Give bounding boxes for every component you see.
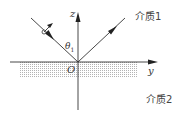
z-axis-label: z <box>70 9 75 19</box>
y-axis-label: y <box>148 66 154 76</box>
angle-subscript: 1 <box>70 46 74 53</box>
polarization-arrow-icon <box>47 23 53 28</box>
reflected-ray <box>78 18 125 62</box>
incident-ray <box>31 18 78 62</box>
y-axis-arrow-icon <box>148 60 158 65</box>
angle-label: θ1 <box>65 42 74 53</box>
origin-label: O <box>67 65 75 75</box>
reflection-diagram: z y O θ1 介质1 介质2 <box>0 0 179 116</box>
incident-ray-arrow-icon <box>45 30 54 40</box>
medium2-shaded-region <box>20 62 137 78</box>
medium2-label: 介质2 <box>146 95 172 105</box>
medium1-label: 介质1 <box>135 12 161 22</box>
z-axis-arrow-icon <box>76 12 81 22</box>
